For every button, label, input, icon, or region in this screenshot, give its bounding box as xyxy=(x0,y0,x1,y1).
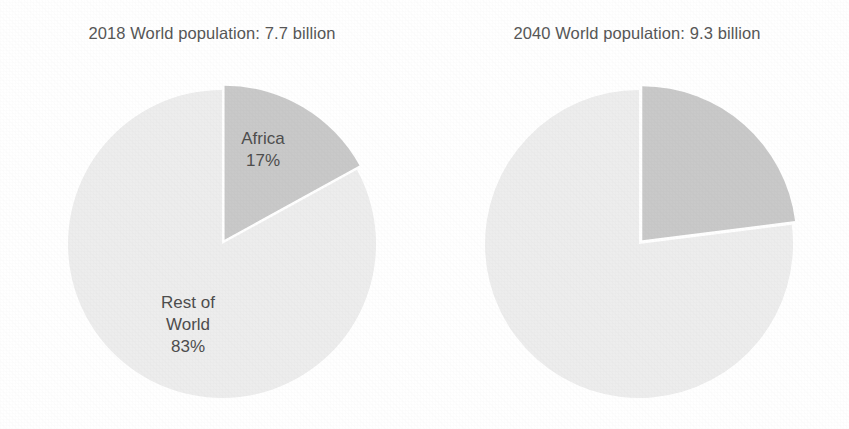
pie-label-rest-line2-2018: World xyxy=(128,314,248,336)
pie-label-africa-name-2018: Africa xyxy=(208,128,318,150)
pie-chart-2040 xyxy=(477,82,801,406)
pie-slice-africa-2040 xyxy=(642,86,795,240)
chart-panel-2018: 2018 World population: 7.7 billion Afric… xyxy=(0,0,424,429)
pie-label-africa-2018: Africa 17% xyxy=(208,128,318,172)
chart-title-2040: 2040 World population: 9.3 billion xyxy=(425,24,849,43)
pie-label-rest-value-2018: 83% xyxy=(128,336,248,358)
pie-label-africa-value-2018: 17% xyxy=(208,150,318,172)
pie-label-rest-of-world-2018: Rest of World 83% xyxy=(128,292,248,357)
chart-title-2018: 2018 World population: 7.7 billion xyxy=(0,24,424,43)
pie-label-rest-line1-2018: Rest of xyxy=(128,292,248,314)
chart-panel-2040: 2040 World population: 9.3 billion Afric… xyxy=(425,0,849,429)
pie-chart-figure: 2018 World population: 7.7 billion Afric… xyxy=(0,0,849,429)
